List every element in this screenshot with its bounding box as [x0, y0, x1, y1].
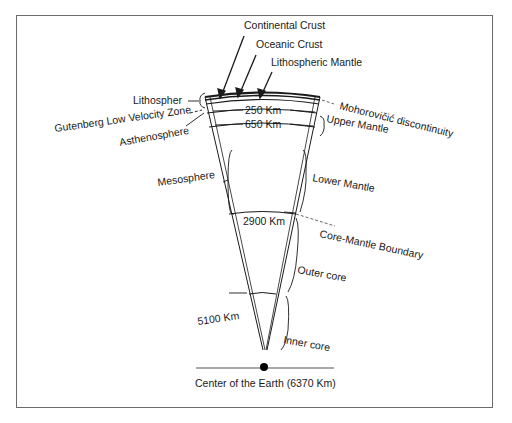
label-mesosphere: Mesosphere [157, 168, 216, 188]
label-inner-core: Inner core [283, 333, 332, 353]
depth-5100km: 5100 Km [197, 309, 241, 327]
depth-250km: 250 Km [245, 104, 281, 116]
earth-center-dot [260, 363, 268, 371]
label-asthenosphere: Asthenosphere [118, 124, 190, 148]
label-oceanic-crust: Oceanic Crust [256, 38, 323, 50]
earth-wedge-diagram: Continental Crust Oceanic Crust Lithosph… [0, 0, 512, 423]
depth-2900km: 2900 Km [243, 215, 285, 227]
label-lower-mantle: Lower Mantle [312, 171, 376, 194]
label-lithospheric-mantle: Lithospheric Mantle [271, 56, 362, 68]
label-earth-center: Center of the Earth (6370 Km) [195, 377, 336, 389]
label-outer-core: Outer core [297, 263, 348, 283]
label-core-mantle-boundary: Core-Mantle Boundary [319, 227, 426, 261]
label-continental-crust: Continental Crust [244, 19, 325, 31]
depth-650km: 650 Km [245, 118, 281, 130]
